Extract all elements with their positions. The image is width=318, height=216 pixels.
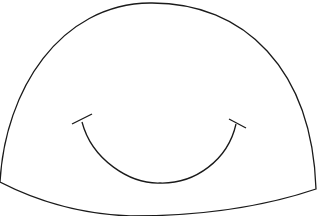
smiling-dome-illustration — [0, 0, 318, 216]
dome-outline — [0, 3, 316, 216]
